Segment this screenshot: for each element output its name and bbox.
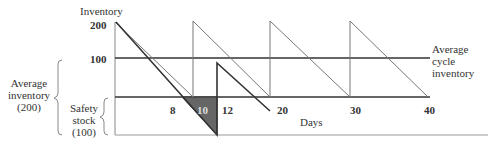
y-tick-200: 200	[90, 19, 107, 31]
y-tick-100: 100	[90, 53, 107, 65]
y-axis-title: Inventory	[80, 5, 123, 17]
x-tick-8: 8	[170, 104, 176, 116]
safety-stock-label: Safety stock (100)	[66, 102, 102, 138]
x-tick-40: 40	[424, 104, 435, 116]
average-inventory-label: Average inventory (200)	[4, 77, 54, 113]
average-cycle-inventory-label: Average cycle inventory	[432, 43, 474, 79]
x-axis-title: Days	[300, 116, 323, 128]
average-inventory-brace	[54, 60, 62, 135]
planned-cycle-series	[115, 21, 428, 97]
x-tick-30: 30	[350, 104, 361, 116]
x-tick-10: 10	[197, 104, 208, 116]
x-tick-12: 12	[222, 104, 233, 116]
x-tick-20: 20	[277, 104, 288, 116]
